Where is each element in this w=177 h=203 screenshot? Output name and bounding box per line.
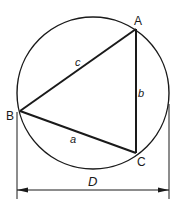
arrowhead-left-icon — [17, 188, 28, 193]
side-label-b: b — [138, 87, 144, 99]
arrowhead-right-icon — [158, 188, 169, 193]
circumscribed-triangle-diagram: A B C c b a D — [0, 0, 177, 203]
vertex-label-c: C — [137, 155, 146, 169]
side-label-a: a — [70, 133, 76, 145]
side-a — [20, 111, 136, 153]
side-label-c: c — [75, 56, 81, 68]
diameter-label: D — [88, 174, 97, 189]
vertex-label-b: B — [6, 109, 14, 123]
vertex-label-a: A — [134, 14, 142, 28]
circumcircle — [17, 17, 169, 169]
